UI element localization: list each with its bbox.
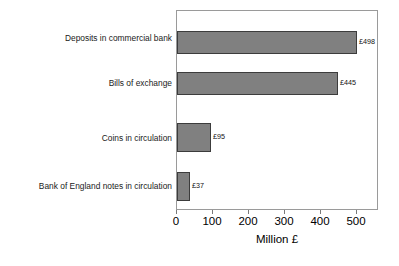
x-tick-label-5: 500 — [346, 214, 365, 228]
category-label-text: Bank of England notes in circulation — [39, 181, 172, 191]
x-tick-label-4: 400 — [310, 214, 329, 228]
category-label-3: Bank of England notes in circulation — [0, 181, 172, 191]
value-label-0: £498 — [359, 38, 375, 46]
value-label-2: £95 — [213, 133, 225, 141]
x-tick-label-3: 300 — [274, 214, 293, 228]
category-label-text: Coins in circulation — [102, 133, 172, 143]
bar-0 — [177, 31, 357, 54]
bar-chart: Deposits in commercial bank Bills of exc… — [0, 0, 399, 266]
plot-area: £498 £445 £95 £37 — [176, 10, 378, 210]
x-tick-label-2: 200 — [238, 214, 257, 228]
category-label-text: Bills of exchange — [109, 78, 172, 88]
x-axis-tick-labels: 0 100 200 300 400 500 — [176, 214, 378, 230]
value-label-3: £37 — [192, 182, 204, 190]
x-tick-label-0: 0 — [173, 214, 179, 228]
bar-1 — [177, 72, 338, 95]
category-label-text: Deposits in commercial bank — [65, 33, 172, 43]
x-axis-title: Million £ — [176, 232, 378, 246]
x-tick-label-1: 100 — [202, 214, 221, 228]
category-label-1: Bills of exchange — [0, 78, 172, 88]
bar-3 — [177, 172, 190, 201]
category-label-2: Coins in circulation — [0, 133, 172, 143]
value-label-1: £445 — [340, 79, 356, 87]
category-label-0: Deposits in commercial bank — [0, 33, 172, 43]
bar-2 — [177, 123, 211, 152]
